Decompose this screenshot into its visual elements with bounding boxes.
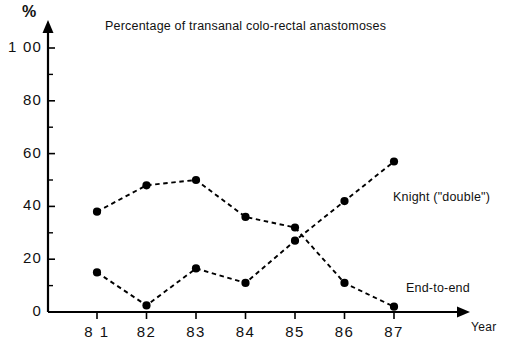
data-point bbox=[340, 197, 348, 205]
data-point bbox=[93, 208, 101, 216]
y-tick-label: 0 bbox=[0, 302, 42, 319]
chart-figure: % Percentage of transanal colo-rectal an… bbox=[0, 0, 519, 344]
data-point bbox=[291, 237, 299, 245]
series-line-0 bbox=[97, 180, 394, 307]
data-point bbox=[93, 268, 101, 276]
data-point bbox=[390, 157, 398, 165]
data-point bbox=[192, 264, 200, 272]
y-tick-label: 40 bbox=[0, 196, 42, 213]
y-tick-label: 60 bbox=[0, 144, 42, 161]
data-point bbox=[390, 303, 398, 311]
data-point bbox=[291, 223, 299, 231]
y-axis-unit-label: % bbox=[22, 3, 36, 21]
data-point bbox=[241, 213, 249, 221]
data-point bbox=[142, 181, 150, 189]
x-tick-label: 83 bbox=[176, 323, 216, 340]
chart-title: Percentage of transanal colo-rectal anas… bbox=[105, 19, 386, 33]
x-tick-label: 8 1 bbox=[77, 323, 117, 340]
series-label-knight: Knight ("double") bbox=[393, 190, 490, 204]
y-tick-label: 1 00 bbox=[0, 38, 42, 55]
x-tick-label: 85 bbox=[275, 323, 315, 340]
x-tick-label: 87 bbox=[374, 323, 414, 340]
y-tick-label: 80 bbox=[0, 91, 42, 108]
data-point bbox=[340, 279, 348, 287]
x-tick-label: 84 bbox=[226, 323, 266, 340]
x-axis-arrow bbox=[457, 307, 470, 318]
series-label-end-to-end: End-to-end bbox=[406, 281, 470, 295]
x-tick-label: 82 bbox=[127, 323, 167, 340]
x-axis-title: Year bbox=[471, 320, 496, 334]
data-point bbox=[241, 279, 249, 287]
data-point bbox=[142, 301, 150, 309]
x-tick-label: 86 bbox=[325, 323, 365, 340]
y-axis-arrow bbox=[43, 20, 54, 33]
y-tick-label: 20 bbox=[0, 249, 42, 266]
data-point bbox=[192, 176, 200, 184]
series-layer bbox=[93, 157, 398, 310]
